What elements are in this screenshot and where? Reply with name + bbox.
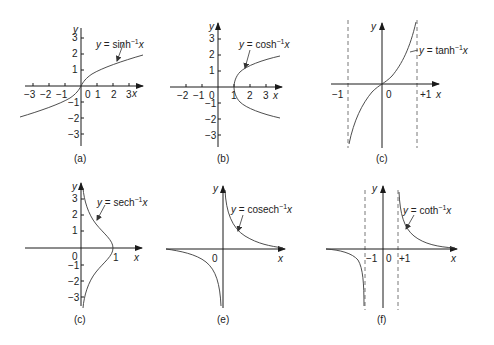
caption-e: (e) bbox=[217, 314, 229, 325]
svg-text:3: 3 bbox=[209, 33, 215, 44]
svg-text:1: 1 bbox=[113, 252, 119, 263]
svg-text:−1: −1 bbox=[332, 89, 344, 100]
svg-text:−1: −1 bbox=[68, 260, 80, 271]
svg-text:−1: −1 bbox=[56, 89, 68, 100]
cosech-inverse-curve-positive bbox=[225, 190, 283, 248]
caption-b: (b) bbox=[217, 153, 229, 164]
svg-text:1: 1 bbox=[72, 225, 78, 236]
function-label: y = sech−1x bbox=[96, 196, 149, 208]
y-axis-label: y bbox=[71, 181, 78, 192]
panel-f-coth-inverse: y x y = coth−1x −1 0 +1 (f) bbox=[326, 183, 457, 325]
svg-text:+1: +1 bbox=[399, 253, 411, 264]
y-axis-label: y bbox=[370, 21, 377, 32]
x-tick-labels: −1 0 +1 x bbox=[332, 89, 442, 100]
caption-f: (f) bbox=[377, 314, 386, 325]
svg-text:1: 1 bbox=[209, 65, 215, 76]
svg-text:2: 2 bbox=[247, 90, 253, 101]
svg-text:3: 3 bbox=[72, 193, 78, 204]
panel-c-sech-inverse: y x y = sech−1x 0 1 3 2 1 −1 −2 −3 (c) bbox=[25, 181, 149, 325]
svg-text:0: 0 bbox=[386, 253, 392, 264]
svg-text:−2: −2 bbox=[205, 114, 217, 125]
svg-text:−1: −1 bbox=[68, 97, 80, 108]
svg-text:−3: −3 bbox=[205, 130, 217, 141]
y-axis-label: y bbox=[208, 21, 215, 32]
y-axis-label: y bbox=[371, 183, 378, 194]
svg-text:3: 3 bbox=[72, 32, 78, 43]
label-pointer bbox=[406, 215, 414, 229]
svg-text:−3: −3 bbox=[24, 89, 36, 100]
svg-text:−2: −2 bbox=[68, 276, 80, 287]
x-axis-label: x bbox=[272, 90, 279, 101]
panel-c-tanh-inverse: y y = tanh−1x −1 0 +1 x (c) bbox=[331, 20, 469, 164]
x-tick-label-0: 0 bbox=[212, 253, 218, 264]
svg-text:x: x bbox=[435, 89, 442, 100]
function-label: y = tanh−1x bbox=[418, 44, 469, 56]
caption-c: (c) bbox=[376, 153, 388, 164]
svg-text:−1: −1 bbox=[193, 90, 205, 101]
function-label: y = sinh−1x bbox=[95, 38, 145, 50]
x-tick-labels: −2 −1 0 1 2 3 bbox=[177, 90, 269, 101]
x-axis-label: x bbox=[450, 253, 457, 264]
caption-c-bottom: (c) bbox=[74, 314, 86, 325]
y-axis-label: y bbox=[212, 183, 219, 194]
coth-inverse-curve-positive bbox=[399, 192, 455, 248]
svg-text:2: 2 bbox=[111, 89, 117, 100]
svg-text:−1: −1 bbox=[205, 98, 217, 109]
x-tick-labels: −1 0 +1 bbox=[366, 253, 411, 264]
svg-text:1: 1 bbox=[72, 64, 78, 75]
svg-text:−3: −3 bbox=[68, 292, 80, 303]
label-pointer bbox=[238, 215, 243, 231]
svg-text:3: 3 bbox=[126, 89, 132, 100]
svg-text:2: 2 bbox=[209, 49, 215, 60]
svg-text:2: 2 bbox=[72, 209, 78, 220]
function-label: y = cosech−1x bbox=[230, 203, 293, 215]
function-label: y = cosh−1x bbox=[238, 38, 291, 50]
svg-text:3: 3 bbox=[263, 90, 269, 101]
svg-text:2: 2 bbox=[72, 48, 78, 59]
caption-a: (a) bbox=[74, 153, 86, 164]
function-label: y = coth−1x bbox=[402, 204, 452, 216]
panel-b-cosh-inverse: y x y = cosh−1x −2 −1 0 1 2 3 3 2 1 −1 −… bbox=[170, 21, 291, 164]
svg-text:−3: −3 bbox=[68, 129, 80, 140]
svg-text:1: 1 bbox=[231, 90, 237, 101]
svg-text:1: 1 bbox=[95, 89, 101, 100]
svg-text:−1: −1 bbox=[366, 253, 378, 264]
svg-text:0: 0 bbox=[85, 89, 91, 100]
x-axis-label: x bbox=[277, 253, 284, 264]
coth-inverse-curve-negative bbox=[326, 249, 364, 306]
svg-text:−2: −2 bbox=[40, 89, 52, 100]
x-axis-label: x bbox=[133, 252, 140, 263]
inverse-hyperbolic-figure: y x y = sinh−1x −3 −2 −1 0 1 2 3 3 2 1 −… bbox=[0, 0, 494, 345]
svg-text:−2: −2 bbox=[177, 90, 189, 101]
panel-e-cosech-inverse: y x y = cosech−1x 0 (e) bbox=[166, 183, 293, 325]
svg-text:+1: +1 bbox=[420, 89, 432, 100]
panel-a-sinh-inverse: y x y = sinh−1x −3 −2 −1 0 1 2 3 3 2 1 −… bbox=[20, 24, 145, 164]
svg-text:−2: −2 bbox=[68, 113, 80, 124]
svg-text:0: 0 bbox=[386, 89, 392, 100]
x-axis-label: x bbox=[131, 88, 138, 99]
